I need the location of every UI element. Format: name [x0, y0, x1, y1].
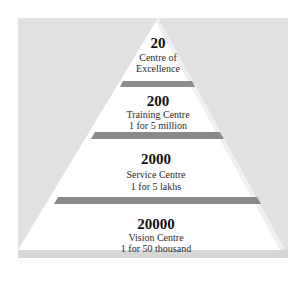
pyramid-diagram: 20 Centre of Excellence 200 Training Cen… [0, 0, 306, 286]
level-1-label: Centre of [139, 52, 177, 63]
level-4-count: 20000 [137, 216, 175, 232]
level-1-count: 20 [151, 35, 166, 51]
separator-3 [54, 197, 261, 204]
level-2-label: Training Centre [126, 109, 190, 120]
separator-2 [91, 132, 224, 139]
pyramid-svg: 20 Centre of Excellence 200 Training Cen… [0, 0, 306, 286]
level-2-label-2: 1 for 5 million [129, 120, 187, 131]
level-3-label-2: 1 for 5 lakhs [131, 181, 181, 192]
level-4-label: Vision Centre [128, 232, 184, 243]
level-2-count: 200 [147, 93, 170, 109]
level-1-label-2: Excellence [136, 63, 180, 74]
separator-1 [120, 81, 195, 87]
level-3-count: 2000 [141, 151, 171, 167]
level-4-label-2: 1 for 50 thousand [121, 243, 191, 254]
level-3-label: Service Centre [126, 169, 186, 180]
